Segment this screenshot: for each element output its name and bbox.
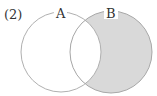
venn-diagram: (2) A B <box>0 0 157 96</box>
problem-label: (2) <box>4 7 22 22</box>
set-b-label: B <box>106 6 116 21</box>
set-a-label: A <box>55 6 66 21</box>
